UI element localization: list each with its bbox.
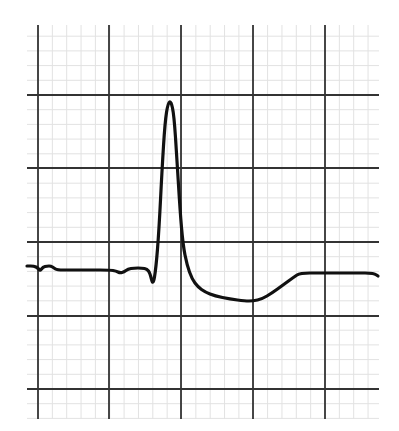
minor-grid — [27, 25, 379, 419]
ecg-chart — [0, 0, 399, 431]
